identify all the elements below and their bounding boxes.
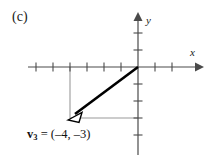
x-axis-arrowhead [195,63,204,72]
y-axis-arrowhead [134,12,143,21]
x-axis: x [28,46,204,72]
vector-v3 [68,67,138,123]
vector-figure: (c) x [0,0,209,166]
vector-label-x: –4 [55,127,68,141]
y-axis: y [134,12,152,155]
vector-label-close: ) [86,127,90,141]
vector-label: v3 = (–4, –3) [27,127,90,142]
vector-shaft [75,67,138,114]
vector-label-equals: = ( [38,127,55,141]
y-axis-label: y [145,14,151,26]
x-axis-label: x [189,46,195,58]
vector-label-y: –3 [74,127,87,141]
